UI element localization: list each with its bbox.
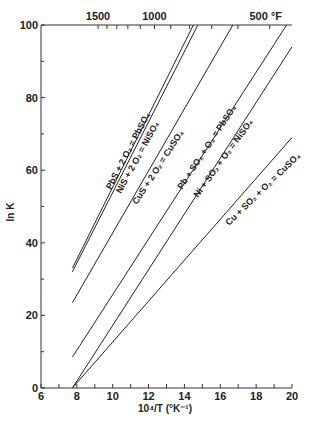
x-tick-label: 14 [178, 390, 191, 402]
x-tick-label: 16 [214, 390, 226, 402]
x-tick-label: 10 [107, 390, 119, 402]
x-tick-label: 20 [286, 390, 298, 402]
y-tick-label: 40 [26, 237, 38, 249]
y-tick-label: 100 [20, 19, 38, 31]
axes: 6810121416182002040608010015001000500 °F [20, 10, 298, 402]
top-tick-label: 500 °F [250, 10, 283, 22]
y-tick-label: 80 [26, 92, 38, 104]
top-tick-label: 1000 [142, 10, 166, 22]
line-labels: PbS + 2 O₂ = PbSO₄ NiS + 2 O₂ = NiSO₄ Cu… [104, 103, 302, 227]
label-cu: Cu + SO₂ + O₂ = CuSO₄ [223, 151, 302, 228]
x-tick-label: 8 [74, 390, 80, 402]
x-tick-label: 18 [250, 390, 262, 402]
x-tick-label: 12 [142, 390, 154, 402]
y-tick-label: 60 [26, 164, 38, 176]
x-tick-label: 6 [38, 390, 44, 402]
series-line-2 [72, 25, 232, 303]
series-line-4 [72, 47, 292, 388]
series-line-1 [72, 25, 198, 272]
top-tick-label: 1500 [86, 10, 110, 22]
y-tick-label: 20 [26, 309, 38, 321]
x-axis-title: 10⁴/T (°K⁻¹) [138, 403, 192, 414]
chart: 6810121416182002040608010015001000500 °F… [0, 0, 315, 424]
series-lines [72, 25, 292, 388]
y-tick-label: 0 [32, 382, 38, 394]
y-axis-title: ln K [5, 202, 16, 222]
